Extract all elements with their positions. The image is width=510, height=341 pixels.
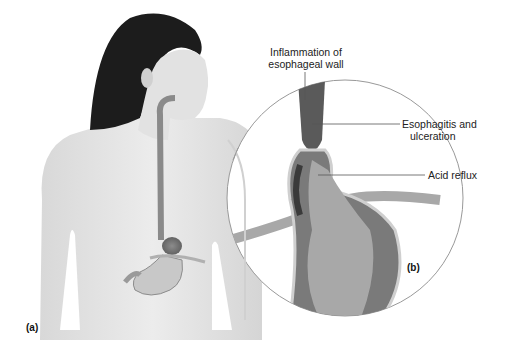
- callout-acid-reflux: Acid reflux: [428, 169, 477, 181]
- callout-inflammation: Inflammation of esophageal wall: [265, 46, 347, 70]
- ear: [141, 68, 153, 88]
- panel-a-label: (a): [26, 322, 38, 334]
- panel-b-label: (b): [407, 262, 420, 274]
- callout-inflammation-line1: Inflammation of: [265, 46, 347, 58]
- callout-inflammation-line2: esophageal wall: [265, 58, 347, 70]
- callout-esophagitis-line2: ulceration: [402, 130, 477, 142]
- callout-esophagitis: Esophagitis and ulceration: [402, 118, 477, 142]
- callout-esophagitis-line1: Esophagitis and: [402, 118, 477, 130]
